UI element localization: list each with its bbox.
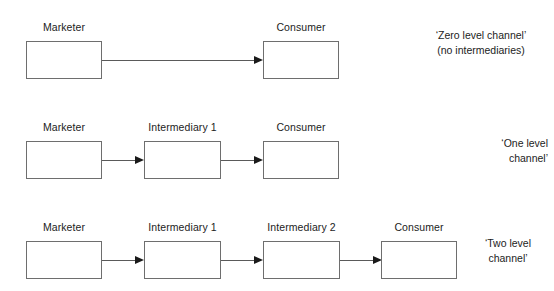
channel-note-line-1: ‘Two level: [468, 236, 548, 251]
channel-note-line-2: channel’: [410, 151, 548, 166]
channel-row-zero-level: Marketer Consumer ‘Zero level channel’ (…: [0, 0, 554, 100]
node-box-intermediary-1: [144, 241, 221, 279]
node-label-consumer: Consumer: [263, 121, 339, 134]
channel-note-line-1: ‘Zero level channel’: [412, 28, 550, 43]
connector-intermediary-2-to-consumer: [340, 255, 382, 267]
node-label-intermediary-1: Intermediary 1: [144, 121, 221, 134]
node-label-intermediary-2: Intermediary 2: [263, 221, 340, 234]
node-box-consumer: [263, 141, 339, 179]
node-label-marketer: Marketer: [26, 121, 102, 134]
channel-row-one-level: Marketer Intermediary 1 Consumer ‘One le…: [0, 100, 554, 200]
diagram-canvas: Marketer Consumer ‘Zero level channel’ (…: [0, 0, 554, 291]
channel-note-line-2: channel’: [468, 251, 548, 266]
channel-note-line-2: (no intermediaries): [412, 43, 550, 58]
connector-marketer-to-intermediary-1: [102, 255, 144, 267]
node-label-consumer: Consumer: [263, 21, 339, 34]
node-box-marketer: [26, 241, 102, 279]
arrowhead-icon: [254, 56, 263, 64]
connector-line: [102, 260, 135, 261]
connector-line: [221, 160, 254, 161]
node-label-marketer: Marketer: [26, 21, 102, 34]
node-label-intermediary-1: Intermediary 1: [144, 221, 221, 234]
arrowhead-icon: [135, 256, 144, 264]
arrowhead-icon: [254, 156, 263, 164]
arrowhead-icon: [135, 156, 144, 164]
connector-line: [102, 60, 254, 61]
connector-line: [221, 260, 254, 261]
node-box-consumer: [381, 241, 457, 279]
arrowhead-icon: [254, 256, 263, 264]
channel-note-zero-level: ‘Zero level channel’ (no intermediaries): [412, 28, 550, 57]
node-box-consumer: [263, 41, 339, 79]
channel-row-two-level: Marketer Intermediary 1 Intermediary 2 C…: [0, 200, 554, 291]
connector-marketer-to-intermediary-1: [102, 155, 144, 167]
connector-intermediary-1-to-consumer: [221, 155, 263, 167]
channel-note-line-1: ‘One level: [410, 136, 548, 151]
connector-intermediary-1-to-intermediary-2: [221, 255, 263, 267]
connector-line: [102, 160, 135, 161]
connector-marketer-to-consumer: [102, 55, 263, 67]
node-box-marketer: [26, 41, 102, 79]
channel-note-one-level: ‘One level channel’: [410, 136, 548, 165]
node-box-intermediary-1: [144, 141, 221, 179]
channel-note-two-level: ‘Two level channel’: [468, 236, 548, 265]
connector-line: [340, 260, 373, 261]
node-box-marketer: [26, 141, 102, 179]
node-label-marketer: Marketer: [26, 221, 102, 234]
node-label-consumer: Consumer: [381, 221, 457, 234]
node-box-intermediary-2: [263, 241, 340, 279]
